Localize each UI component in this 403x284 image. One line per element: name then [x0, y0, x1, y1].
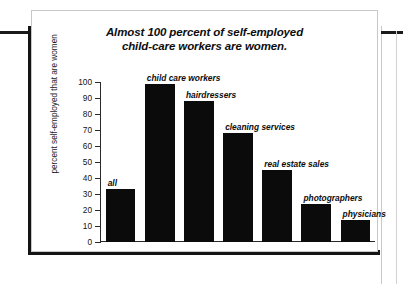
- bar: [223, 133, 253, 242]
- bar: [184, 101, 214, 242]
- y-axis-tick-label: 60: [83, 141, 92, 151]
- y-axis-tick-label: 90: [83, 93, 92, 103]
- bar-label: physicians: [343, 209, 386, 219]
- bar: [145, 84, 175, 242]
- bar: [106, 189, 136, 242]
- y-axis-tick-label: 30: [83, 189, 92, 199]
- bar: [301, 204, 331, 242]
- y-axis-tick-label: 20: [83, 205, 92, 215]
- bar-label: real estate sales: [264, 159, 329, 169]
- plot-area: percent self-employed that are women 100…: [32, 11, 379, 253]
- bar: [262, 170, 292, 242]
- y-axis-tick-label: 80: [83, 109, 92, 119]
- chart-card: Almost 100 percent of self-employed chil…: [31, 10, 378, 252]
- bar-series: allchild care workershairdresserscleanin…: [101, 82, 375, 242]
- bar: [341, 220, 371, 242]
- frame-far-right-vertical-rule: [396, 31, 397, 284]
- y-axis-tick-label: 100: [78, 77, 92, 87]
- bar-label: cleaning services: [225, 122, 295, 132]
- y-axis-tick-label: 50: [83, 157, 92, 167]
- bar-label: all: [108, 178, 117, 188]
- y-axis-tick: 0: [95, 242, 101, 243]
- y-axis-tick-label: 70: [83, 125, 92, 135]
- frame-right-tick-rule: [381, 31, 403, 34]
- frame-right-vertical-rule: [381, 26, 382, 284]
- y-axis-title: percent self-employed that are women: [50, 42, 59, 174]
- y-axis-tick-label: 10: [83, 221, 92, 231]
- frame-left-tick-rule: [0, 31, 30, 34]
- bar-label: photographers: [303, 193, 362, 203]
- y-axis-tick-label: 0: [87, 237, 92, 247]
- bar-label: child care workers: [147, 73, 221, 83]
- y-axis-tick-label: 40: [83, 173, 92, 183]
- page-canvas: Almost 100 percent of self-employed chil…: [0, 0, 403, 284]
- bar-label: hairdressers: [186, 90, 236, 100]
